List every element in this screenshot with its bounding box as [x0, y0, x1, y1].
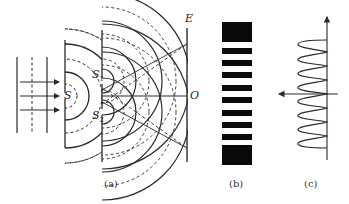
label-screen-e: E [185, 13, 193, 24]
panel-b-fringes [222, 22, 252, 165]
caption-b: (b) [229, 179, 243, 189]
double-slit-figure: S S1 S2 E O (a) (b) (c) [0, 0, 349, 204]
caption-a: (a) [104, 179, 118, 189]
caption-c: (c) [304, 179, 317, 189]
interference-lines [102, 44, 187, 148]
diagram-svg [0, 0, 349, 204]
label-s2: S2 [92, 110, 104, 124]
panel-c-intensity [279, 17, 338, 160]
label-s1: S1 [92, 69, 104, 83]
incident-wavefronts [17, 57, 47, 133]
label-center-o: O [190, 90, 199, 101]
label-s: S [64, 90, 72, 101]
incident-ray-arrows [20, 82, 59, 110]
panel-a [0, 0, 190, 200]
